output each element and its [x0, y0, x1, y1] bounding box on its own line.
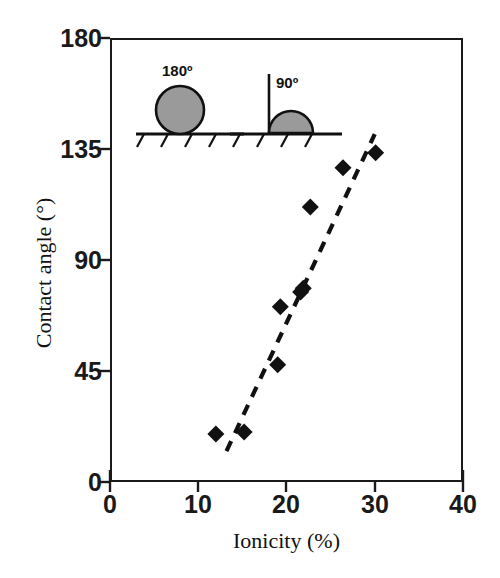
inset-90-degree-droplet: 90º [228, 62, 348, 160]
x-axis-tick-labels: 0 10 20 30 40 [0, 492, 500, 528]
x-axis-title: Ionicity (%) [110, 528, 463, 554]
figure-canvas: 180 135 90 45 0 0 10 20 30 40 Contact an… [0, 0, 500, 578]
x-tick-label-20: 20 [251, 492, 321, 517]
caption-remnant [8, 562, 308, 576]
x-tick-label-40: 40 [428, 492, 498, 517]
y-tick-label-180: 180 [44, 26, 102, 51]
y-axis-title: Contact angle (°) [31, 153, 57, 393]
inset-90-label: 90º [276, 74, 298, 91]
x-tick-label-30: 30 [340, 492, 410, 517]
x-tick-label-0: 0 [75, 492, 145, 517]
inset-180-label: 180º [162, 62, 193, 79]
y-tick-label-0: 0 [44, 470, 102, 495]
x-tick-label-10: 10 [163, 492, 233, 517]
